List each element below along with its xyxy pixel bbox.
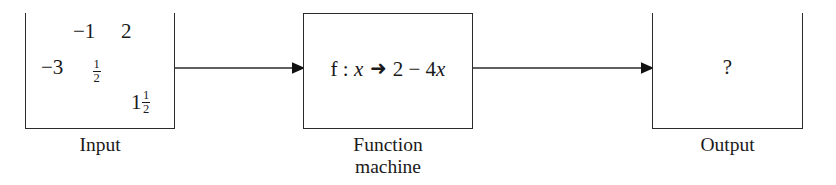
fraction-numerator: 1 xyxy=(93,58,101,71)
maps-to-arrow-icon: ➜ xyxy=(370,58,387,78)
input-value-negative-one: −1 xyxy=(73,21,95,42)
fraction-stack: 1 2 xyxy=(142,89,150,116)
mixed-number-one-and-one-half: 1 1 2 xyxy=(131,89,151,116)
fraction-one-half: 1 2 xyxy=(92,58,101,85)
output-box-caption: Output xyxy=(652,134,803,156)
fraction-numerator: 1 xyxy=(142,89,150,102)
mixed-number-whole-part: 1 xyxy=(131,92,142,113)
function-rule: 2 − 4 xyxy=(393,57,436,81)
function-machine-box: f : x ➜ 2 − 4x xyxy=(303,13,473,129)
output-unknown-value: ? xyxy=(653,57,802,78)
function-rule-variable: x xyxy=(436,57,445,81)
input-box-caption: Input xyxy=(25,134,175,156)
fraction-stack: 1 2 xyxy=(93,58,101,85)
input-value-two: 2 xyxy=(121,21,132,42)
arrow-machine-to-output-icon xyxy=(472,61,654,75)
input-value-one-half: 1 2 xyxy=(92,51,101,85)
function-name: f xyxy=(331,57,338,81)
input-box: −1 2 −3 1 2 1 1 2 xyxy=(25,13,175,129)
function-machine-caption: Function machine xyxy=(303,134,473,179)
output-box: ? xyxy=(652,13,803,129)
input-value-one-and-one-half: 1 1 2 xyxy=(131,89,151,116)
function-machine-diagram: −1 2 −3 1 2 1 1 2 Input xyxy=(0,0,836,185)
input-value-negative-three: −3 xyxy=(41,57,63,78)
function-input-variable: x xyxy=(354,57,363,81)
function-colon: : xyxy=(343,57,349,81)
fraction-denominator: 2 xyxy=(142,102,150,116)
fraction-denominator: 2 xyxy=(93,71,101,85)
arrow-input-to-machine-icon xyxy=(174,61,305,75)
function-expression: f : x ➜ 2 − 4x xyxy=(304,59,472,80)
